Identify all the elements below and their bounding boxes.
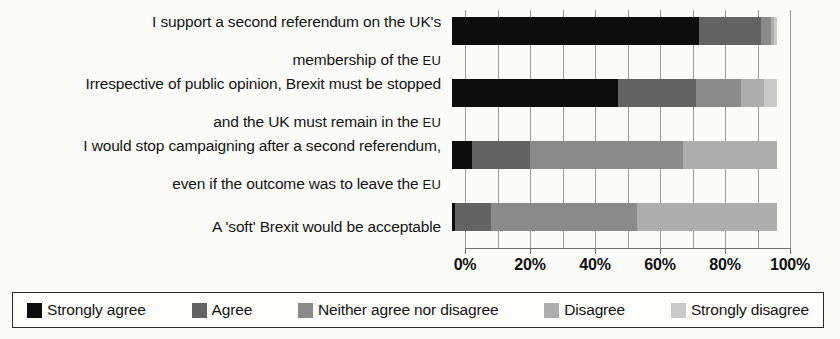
- category-label-line1: Irrespective of public opinion, Brexit m…: [86, 75, 441, 92]
- category-label-line1: I support a second referendum on the UK'…: [152, 13, 441, 30]
- bar-segment: [455, 203, 491, 231]
- chart-legend: Strongly agreeAgreeNeither agree nor dis…: [12, 292, 824, 328]
- category-label-line1: A 'soft' Brexit would be acceptable: [212, 218, 441, 235]
- bar-segment: [761, 17, 771, 45]
- x-axis-tick-label: 80%: [709, 256, 740, 274]
- plot-area: I support a second referendum on the UK'…: [0, 0, 840, 285]
- bar-cell: [452, 124, 840, 186]
- x-axis-tick: [725, 248, 726, 254]
- legend-swatch-icon: [192, 303, 207, 318]
- bar-segment: [764, 79, 777, 107]
- stacked-bar-chart: I support a second referendum on the UK'…: [0, 0, 840, 339]
- bar-rows: I support a second referendum on the UK'…: [0, 0, 840, 248]
- x-axis-tick: [660, 248, 661, 254]
- legend-item[interactable]: Agree: [192, 301, 253, 319]
- x-axis-tick-label: 20%: [514, 256, 545, 274]
- bar-cell: [452, 62, 840, 124]
- x-axis-tick: [465, 248, 466, 254]
- bar-segment: [452, 17, 699, 45]
- legend-swatch-icon: [544, 303, 559, 318]
- chart-row: I would stop campaigning after a second …: [0, 124, 840, 186]
- chart-row: Irrespective of public opinion, Brexit m…: [0, 62, 840, 124]
- bar-segment: [452, 141, 472, 169]
- legend-item[interactable]: Neither agree nor disagree: [298, 301, 499, 319]
- bar-segment: [472, 141, 531, 169]
- chart-row: A 'soft' Brexit would be acceptable: [0, 186, 840, 248]
- stacked-bar: [452, 203, 777, 231]
- bar-segment: [452, 79, 618, 107]
- legend-swatch-icon: [27, 303, 42, 318]
- bar-segment: [741, 79, 764, 107]
- bar-segment: [618, 79, 696, 107]
- legend-label: Disagree: [564, 301, 625, 319]
- legend-swatch-icon: [671, 303, 686, 318]
- x-axis-tick: [530, 248, 531, 254]
- legend-label: Strongly disagree: [691, 301, 809, 319]
- x-axis-tick-labels: 0%20%40%60%80%100%: [0, 256, 840, 280]
- stacked-bar: [452, 17, 777, 45]
- category-label: I would stop campaigning after a second …: [0, 117, 452, 194]
- bar-segment: [699, 17, 761, 45]
- bar-segment: [683, 141, 777, 169]
- bar-segment: [774, 17, 777, 45]
- x-axis-tick-label: 100%: [770, 256, 810, 274]
- legend-label: Agree: [212, 301, 253, 319]
- legend-item[interactable]: Strongly disagree: [671, 301, 809, 319]
- x-axis-line: [465, 248, 791, 249]
- stacked-bar: [452, 141, 777, 169]
- bar-segment: [530, 141, 683, 169]
- bar-segment: [696, 79, 742, 107]
- bar-cell: [452, 0, 840, 62]
- chart-row: I support a second referendum on the UK'…: [0, 0, 840, 62]
- legend-label: Neither agree nor disagree: [318, 301, 499, 319]
- x-axis-tick: [790, 248, 791, 254]
- stacked-bar: [452, 79, 777, 107]
- x-axis-tick: [595, 248, 596, 254]
- category-label: A 'soft' Brexit would be acceptable: [0, 198, 452, 236]
- bar-segment: [491, 203, 637, 231]
- legend-label: Strongly agree: [47, 301, 146, 319]
- x-axis-tick-label: 40%: [579, 256, 610, 274]
- bar-cell: [452, 186, 840, 248]
- x-axis-tick-label: 60%: [644, 256, 675, 274]
- x-axis-tick-label: 0%: [454, 256, 477, 274]
- legend-item[interactable]: Disagree: [544, 301, 625, 319]
- legend-item[interactable]: Strongly agree: [27, 301, 146, 319]
- bar-segment: [637, 203, 777, 231]
- legend-swatch-icon: [298, 303, 313, 318]
- category-label-line1: I would stop campaigning after a second …: [83, 137, 441, 154]
